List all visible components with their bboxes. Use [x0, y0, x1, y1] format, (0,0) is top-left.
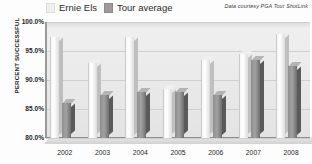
bar-front-face: [175, 92, 184, 138]
bar-front-face: [251, 60, 260, 138]
bar-front-face: [201, 60, 210, 138]
bar-side-face: [184, 92, 188, 134]
y-tick-label: 80.0%: [25, 134, 44, 141]
bar-front-face: [239, 54, 248, 138]
bar-side-face: [222, 95, 226, 134]
x-tick-label: 2008: [272, 148, 310, 158]
bar-front-face: [62, 103, 71, 138]
bar-side-face: [71, 104, 75, 134]
x-tick-label: 2006: [197, 148, 235, 158]
bar-group: [272, 22, 310, 138]
bar-side-face: [260, 60, 264, 134]
bar-group: [46, 22, 84, 138]
bar-front-face: [88, 63, 97, 138]
y-axis-ticks: 100.0%95.0%90.0%85.0%80.0%: [0, 0, 44, 164]
bar-tour-2003: [100, 95, 109, 139]
bar-front-face: [125, 37, 134, 139]
bar-els-2005: [163, 89, 172, 138]
bar-group: [159, 22, 197, 138]
data-credit: Data courtesy PGA Tour ShotLink: [224, 3, 308, 9]
bar-front-face: [50, 37, 59, 139]
bar-els-2003: [88, 63, 97, 138]
x-tick-label: 2003: [84, 148, 122, 158]
tour-swatch-icon: [104, 3, 113, 13]
bar-tour-2006: [213, 95, 222, 139]
bar-tour-2008: [288, 66, 297, 139]
x-tick-label: 2005: [159, 148, 197, 158]
y-tick-label: 90.0%: [25, 76, 44, 83]
x-tick-label: 2002: [46, 148, 84, 158]
bar-tour-2005: [175, 92, 184, 138]
legend-label-ernie-els: Ernie Els: [59, 3, 97, 13]
chart-legend: Ernie Els Tour average: [46, 1, 172, 15]
bar-side-face: [109, 95, 113, 134]
y-tick-label: 100.0%: [22, 18, 44, 25]
legend-item-ernie-els: Ernie Els: [46, 3, 97, 13]
bar-els-2004: [125, 37, 134, 139]
bar-group: [197, 22, 235, 138]
bar-group: [121, 22, 159, 138]
x-axis-labels: 2002200320042005200620072008: [46, 148, 310, 160]
bar-tour-2004: [137, 92, 146, 138]
bar-front-face: [137, 92, 146, 138]
legend-label-tour-average: Tour average: [117, 3, 172, 13]
x-tick-label: 2004: [121, 148, 159, 158]
bar-group: [84, 22, 122, 138]
bar-group: [235, 22, 273, 138]
bar-front-face: [276, 34, 285, 138]
bar-front-face: [213, 95, 222, 139]
bar-els-2007: [239, 54, 248, 138]
bar-side-face: [297, 66, 301, 134]
x-tick-label: 2007: [235, 148, 273, 158]
els-swatch-icon: [46, 3, 55, 13]
y-tick-label: 95.0%: [25, 47, 44, 54]
bar-side-face: [146, 92, 150, 134]
bar-front-face: [163, 89, 172, 138]
bar-chart: Ernie Els Tour average Data courtesy PGA…: [0, 0, 312, 164]
legend-item-tour-average: Tour average: [104, 3, 172, 13]
bar-tour-2007: [251, 60, 260, 138]
bar-tour-2002: [62, 103, 71, 138]
bar-els-2006: [201, 60, 210, 138]
gridline: [46, 138, 310, 139]
bar-els-2008: [276, 34, 285, 138]
y-tick-label: 85.0%: [25, 105, 44, 112]
bar-front-face: [100, 95, 109, 139]
bar-front-face: [288, 66, 297, 139]
bar-els-2002: [50, 37, 59, 139]
plot-area: [46, 22, 310, 138]
